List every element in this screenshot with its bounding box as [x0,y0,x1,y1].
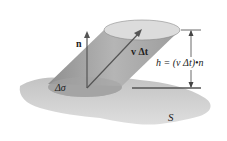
label-area-element: Δσ [55,83,66,93]
label-height-formula: h = (v Δt)•n [156,58,204,68]
height-arrow-down-icon [189,82,194,88]
height-arrow-up-icon [189,30,194,36]
label-velocity: v Δt [131,47,148,57]
top-ellipse [104,20,180,40]
flux-cylinder-diagram [0,0,227,141]
normal-arrowhead-icon [84,31,90,38]
label-surface: S [168,112,174,123]
label-normal: n [76,39,82,49]
